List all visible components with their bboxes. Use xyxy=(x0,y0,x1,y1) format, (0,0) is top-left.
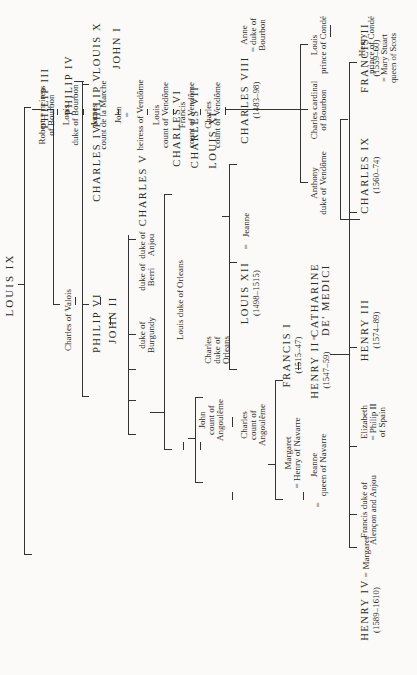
node-heiress-of-vendome: heiress of Vendôme xyxy=(136,80,145,151)
node-margaret-of-valois: Margaret xyxy=(362,537,371,570)
node-john-i: JOHN I xyxy=(112,27,123,70)
node-anne: Anne= duke ofBourbon xyxy=(240,18,267,53)
connector xyxy=(340,119,348,120)
node-robert-heiress-of-bourbon: Robert = heiressof Bourbon xyxy=(38,85,56,144)
connector xyxy=(300,44,301,110)
connector xyxy=(232,417,233,427)
node-francis-duke-of-alencon: Francis duke ofAlençon and Anjou xyxy=(360,475,378,545)
connector xyxy=(330,25,331,37)
node-francis-count-of-vendome: Franciscount of Vendôme xyxy=(178,82,196,148)
connector xyxy=(195,482,203,483)
connector xyxy=(349,514,357,515)
node-francis-i: FRANCIS I(1515–47) xyxy=(282,323,302,388)
node-louis-ix: LOUIS IX xyxy=(4,254,15,317)
node-henry-iv: HENRY IV(1589–1610) xyxy=(360,579,380,641)
node-charles-ix: CHARLES IX(1560–74) xyxy=(360,136,380,214)
node-duke-of-burgundy: duke ofBurgundy xyxy=(138,317,156,353)
node-charles-count-of-vendome: Charlescount of Vendôme xyxy=(204,82,222,148)
connector xyxy=(128,235,129,375)
node-louis-x: LOUIS X xyxy=(92,22,103,74)
connector xyxy=(349,547,357,548)
connector xyxy=(24,107,31,108)
connector xyxy=(349,212,357,213)
connector xyxy=(75,297,76,305)
connector xyxy=(268,464,276,465)
node-john-count-of-angouleme: Johncount ofAngoulême xyxy=(198,399,225,441)
node-charles-duke-of-orleans: Charlesduke ofOrleans xyxy=(204,336,231,364)
connector xyxy=(83,109,84,115)
connector xyxy=(300,108,301,183)
connector xyxy=(349,347,357,348)
connector xyxy=(229,262,237,263)
connector xyxy=(82,81,83,397)
node-charles-count-of-angouleme: Charlescount ofAngoulême xyxy=(240,404,267,446)
connector xyxy=(24,554,32,555)
connector xyxy=(330,354,350,355)
genealogy-tree: LOUIS IX PHILIP III Charles of Valois PH… xyxy=(0,0,417,675)
connector xyxy=(195,397,203,398)
node-elizabeth: Elizabeth= Philip IIof Spain xyxy=(360,403,387,440)
connector xyxy=(24,107,25,555)
connector xyxy=(275,499,283,500)
marriage-sign: = xyxy=(242,244,251,249)
connector xyxy=(300,182,308,183)
connector xyxy=(183,442,184,450)
node-louis-prince-of-conde: Louisprince of Condé xyxy=(310,16,328,74)
connector xyxy=(18,284,25,285)
node-jeanne-queen-of-navarre: Jeannequeen of Navarre xyxy=(310,434,328,496)
connector xyxy=(164,194,172,195)
node-charles-viii: CHARLES VIII(1483–98) xyxy=(240,56,260,144)
node-charles-v: CHARLES V xyxy=(138,154,149,226)
connector xyxy=(222,216,230,217)
node-duke-of-anjou: duke ofAnjou xyxy=(138,231,156,258)
connector xyxy=(150,412,165,413)
node-henry-iii: HENRY III(1574–89) xyxy=(360,299,380,362)
connector xyxy=(340,219,360,220)
connector xyxy=(53,304,60,305)
node-john-vendome: John= xyxy=(114,106,132,123)
node-james-count-de-la-marche: Jamescount de la Marche xyxy=(90,80,108,149)
connector xyxy=(200,442,201,450)
connector xyxy=(349,62,357,63)
connector xyxy=(147,109,148,115)
connector xyxy=(229,164,237,165)
marriage-sign: = xyxy=(314,502,323,507)
node-john-ii: JOHN II xyxy=(108,296,119,344)
connector xyxy=(349,446,357,447)
connector xyxy=(229,369,237,370)
node-margaret-of-navarre: Margaret= Henry of Navarre xyxy=(284,418,302,489)
node-henry-ii: HENRY II(1547–59) xyxy=(310,341,330,399)
connector xyxy=(225,109,300,110)
connector xyxy=(57,109,58,115)
node-catharine-de-medici: CATHARINEDE' MEDICI xyxy=(310,263,331,337)
marriage-sign: = xyxy=(362,572,371,577)
node-louis-xii: LOUIS XII(1498–1515) xyxy=(240,262,260,325)
node-jeanne: Jeanne xyxy=(242,213,251,238)
node-henry-prince-of-conde: Henryprince of Condé xyxy=(358,16,376,74)
connector xyxy=(275,380,276,500)
connector xyxy=(188,438,196,439)
node-duke-of-berri: duke ofBerri xyxy=(138,263,156,290)
connector xyxy=(82,84,89,85)
node-louis-count-of-vendome: Louiscount of Vendôme xyxy=(152,82,170,148)
node-louis-duke-of-bourbon: Louisduke of Bourbon xyxy=(62,85,80,146)
connector xyxy=(340,120,341,220)
connector xyxy=(349,63,350,548)
node-louis-duke-of-orleans: Louis duke of Orleans xyxy=(176,260,185,340)
connector xyxy=(82,396,89,397)
connector xyxy=(232,492,233,500)
connector xyxy=(82,304,89,305)
node-charles-cardinal-of-bourbon: Charles cardinalof Bourbon xyxy=(310,81,328,140)
marriage-sign: = xyxy=(310,335,319,340)
node-charles-of-valois: Charles of Valois xyxy=(64,289,73,351)
node-philip-vi: PHILIP VI xyxy=(92,293,103,353)
node-anthony-duke-of-vendome: Anthonyduke of Vendôme xyxy=(310,151,328,214)
connector xyxy=(303,492,304,500)
connector xyxy=(164,449,172,450)
